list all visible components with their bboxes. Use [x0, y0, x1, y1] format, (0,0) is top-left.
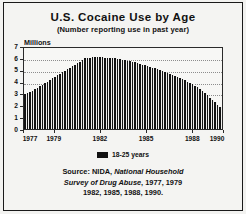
chart-figure: U.S. Cocaine Use by Age (Number reportin…: [0, 0, 246, 214]
y-axis-tick-label: 2: [2, 103, 18, 110]
x-axis-tick-label: 1979: [39, 135, 69, 142]
bar: [219, 107, 222, 129]
source-line-1: Source: NIDA, National Household: [0, 167, 246, 178]
x-axis-tick-label: 1990: [202, 135, 232, 142]
source-italic-2: Survey of Drug Abuse: [64, 178, 141, 187]
source-line-3: 1982, 1985, 1988, 1990.: [0, 188, 246, 199]
y-axis-tick-label: 6: [2, 56, 18, 63]
y-axis-tick-label: 3: [2, 91, 18, 98]
x-axis-tick-mark: [146, 130, 147, 133]
y-axis-unit-label: Millions: [24, 38, 51, 47]
y-axis-tick-label: 0: [2, 127, 18, 134]
plot-area: [23, 47, 223, 130]
source-italic-1: National Household: [114, 167, 183, 176]
source-suffix: , 1977, 1979: [141, 178, 182, 187]
y-axis-tick-label: 7: [2, 44, 18, 51]
x-axis-tick-mark: [54, 130, 55, 133]
x-axis-tick-label: 1982: [85, 135, 115, 142]
x-axis-tick-label: 1985: [131, 135, 161, 142]
chart-legend: 18-25 years: [0, 151, 246, 158]
x-axis-tick-mark: [223, 130, 224, 133]
chart-title: U.S. Cocaine Use by Age: [0, 11, 246, 23]
area-series-18-25-years: [24, 48, 222, 129]
y-axis-tick-label: 4: [2, 79, 18, 86]
y-axis-tick-label: 5: [2, 67, 18, 74]
source-prefix: Source: NIDA,: [62, 167, 114, 176]
y-axis-tick-label: 1: [2, 115, 18, 122]
source-note: Source: NIDA, National Household Survey …: [0, 167, 246, 199]
source-line-2: Survey of Drug Abuse, 1977, 1979: [0, 178, 246, 189]
x-axis-tick-mark: [23, 130, 24, 133]
legend-swatch-18-25-years: [97, 152, 108, 158]
chart-subtitle: (Number reporting use in past year): [0, 25, 246, 34]
x-axis-tick-mark: [192, 130, 193, 133]
legend-label-18-25-years: 18-25 years: [112, 151, 149, 158]
x-axis-tick-mark: [100, 130, 101, 133]
